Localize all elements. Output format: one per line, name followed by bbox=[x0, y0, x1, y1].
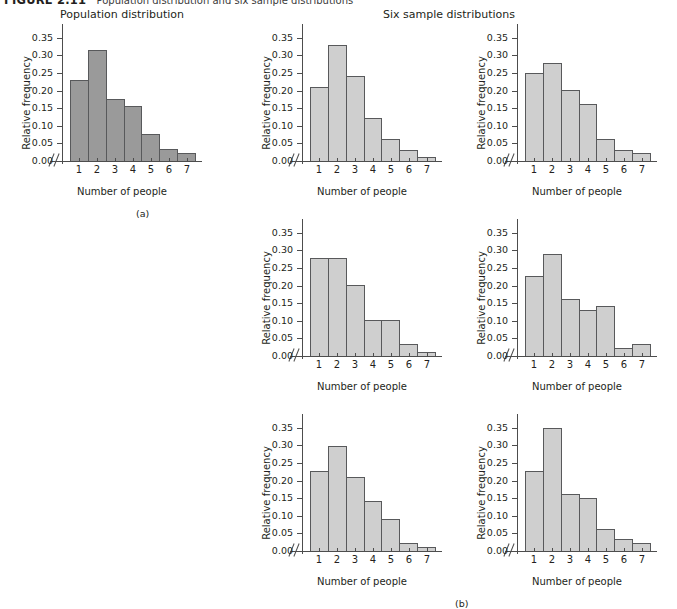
bar bbox=[525, 471, 544, 551]
bar-series bbox=[310, 225, 436, 356]
x-axis-tick-label: 1 bbox=[531, 165, 537, 175]
bar-series bbox=[525, 420, 651, 551]
x-axis-ticks: 1234567 bbox=[525, 552, 651, 572]
bar-series bbox=[310, 420, 436, 551]
bar bbox=[543, 428, 562, 551]
y-axis-tick-label: 0.25 bbox=[487, 458, 508, 468]
x-axis-tick: 3 bbox=[106, 162, 124, 182]
y-axis-tick: 0.35 bbox=[512, 38, 517, 39]
bar bbox=[579, 310, 598, 356]
y-axis-tick: 0.35 bbox=[512, 233, 517, 234]
bar bbox=[381, 519, 400, 551]
x-axis-tick-mark bbox=[409, 548, 410, 552]
x-axis-tick: 6 bbox=[400, 162, 418, 182]
x-axis-tick-label: 6 bbox=[621, 165, 627, 175]
y-axis-tick-label: 0.05 bbox=[272, 139, 293, 149]
x-axis-tick: 5 bbox=[382, 162, 400, 182]
y-axis-tick-label: 0.20 bbox=[487, 476, 508, 486]
x-axis-tick-mark bbox=[409, 353, 410, 357]
x-axis-tick: 6 bbox=[160, 162, 178, 182]
x-axis-tick: 6 bbox=[615, 162, 633, 182]
bar bbox=[579, 104, 598, 161]
y-axis-tick: 0.10 bbox=[297, 516, 302, 517]
y-axis-tick-label: 0.30 bbox=[487, 246, 508, 256]
bar bbox=[346, 477, 365, 551]
y-axis-tick: 0.15 bbox=[297, 303, 302, 304]
y-axis-tick-label: 0.00 bbox=[32, 156, 53, 166]
y-axis-tick: 0.10 bbox=[512, 126, 517, 127]
y-axis-line bbox=[517, 24, 518, 164]
y-axis-tick-label: 0.10 bbox=[272, 511, 293, 521]
x-axis-tick-mark bbox=[427, 548, 428, 552]
x-axis-title: Number of people bbox=[493, 381, 661, 392]
x-axis-tick-label: 6 bbox=[166, 165, 172, 175]
y-axis-tick-label: 0.20 bbox=[487, 86, 508, 96]
y-axis-tick-label: 0.35 bbox=[487, 423, 508, 433]
x-axis-tick: 2 bbox=[543, 552, 561, 572]
x-axis-tick-mark bbox=[552, 548, 553, 552]
y-axis-tick: 0.25 bbox=[297, 268, 302, 269]
y-axis-tick: 0.30 bbox=[297, 250, 302, 251]
x-axis-tick-mark bbox=[355, 548, 356, 552]
y-axis-tick-label: 0.05 bbox=[487, 529, 508, 539]
y-axis-tick: 0.00 bbox=[512, 356, 517, 357]
y-axis-tick: 0.15 bbox=[512, 108, 517, 109]
x-axis-tick-mark bbox=[642, 158, 643, 162]
x-axis-tick-mark bbox=[79, 158, 80, 162]
y-axis-tick: 0.35 bbox=[57, 38, 62, 39]
y-axis-tick-label: 0.20 bbox=[487, 281, 508, 291]
y-axis-tick-label: 0.00 bbox=[272, 351, 293, 361]
x-axis-tick: 6 bbox=[400, 357, 418, 377]
bar bbox=[310, 258, 329, 356]
x-axis-tick-mark bbox=[355, 158, 356, 162]
y-axis-tick-label: 0.10 bbox=[32, 121, 53, 131]
y-axis-tick-label: 0.15 bbox=[272, 103, 293, 113]
y-axis-tick-label: 0.10 bbox=[487, 316, 508, 326]
x-axis-tick-mark bbox=[552, 353, 553, 357]
x-axis-tick-label: 6 bbox=[621, 555, 627, 565]
x-axis-title: Number of people bbox=[493, 576, 661, 587]
y-axis-tick: 0.35 bbox=[512, 428, 517, 429]
y-axis-tick-label: 0.30 bbox=[487, 441, 508, 451]
x-axis-tick: 1 bbox=[525, 552, 543, 572]
x-axis-tick-mark bbox=[151, 158, 152, 162]
x-axis-tick-label: 1 bbox=[316, 555, 322, 565]
y-axis-tick: 0.35 bbox=[297, 233, 302, 234]
x-axis-tick-label: 5 bbox=[603, 555, 609, 565]
x-axis-tick: 1 bbox=[310, 162, 328, 182]
bar bbox=[596, 306, 615, 356]
y-axis-tick: 0.00 bbox=[57, 161, 62, 162]
x-axis-tick: 1 bbox=[310, 552, 328, 572]
x-axis-tick: 3 bbox=[346, 552, 364, 572]
y-axis-tick-label: 0.30 bbox=[272, 51, 293, 61]
y-axis-tick: 0.00 bbox=[297, 551, 302, 552]
x-axis-tick: 7 bbox=[178, 162, 196, 182]
x-axis-tick-mark bbox=[319, 548, 320, 552]
y-axis-tick-label: 0.35 bbox=[272, 423, 293, 433]
y-axis-tick: 0.30 bbox=[512, 55, 517, 56]
x-axis-tick-mark bbox=[606, 548, 607, 552]
x-axis-tick-mark bbox=[588, 158, 589, 162]
sample-distribution-chart-5: Relative frequency0.000.050.100.150.200.… bbox=[248, 412, 458, 597]
x-axis-tick-mark bbox=[534, 548, 535, 552]
x-axis-tick: 2 bbox=[543, 162, 561, 182]
x-axis-tick-mark bbox=[624, 353, 625, 357]
y-axis-tick-label: 0.25 bbox=[487, 263, 508, 273]
y-axis-tick-label: 0.25 bbox=[272, 263, 293, 273]
x-axis-tick-mark bbox=[337, 548, 338, 552]
y-axis-tick-label: 0.00 bbox=[487, 351, 508, 361]
y-axis-tick: 0.20 bbox=[57, 91, 62, 92]
x-axis-tick: 6 bbox=[615, 357, 633, 377]
x-axis-tick: 6 bbox=[615, 552, 633, 572]
x-axis-tick-label: 7 bbox=[639, 165, 645, 175]
y-axis-tick-label: 0.35 bbox=[487, 33, 508, 43]
x-axis-tick-mark bbox=[534, 158, 535, 162]
plot-area: 0.000.050.100.150.200.250.300.351234567 bbox=[517, 420, 649, 552]
x-axis-tick-mark bbox=[642, 353, 643, 357]
y-axis-line bbox=[302, 219, 303, 359]
y-axis-tick-label: 0.05 bbox=[487, 334, 508, 344]
y-axis-tick-label: 0.20 bbox=[272, 476, 293, 486]
y-axis-tick: 0.15 bbox=[297, 498, 302, 499]
y-axis-tick: 0.25 bbox=[512, 73, 517, 74]
sample-distribution-chart-1: Relative frequency0.000.050.100.150.200.… bbox=[248, 22, 458, 207]
